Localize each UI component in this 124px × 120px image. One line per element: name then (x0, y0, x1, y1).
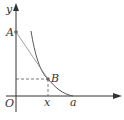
point-a (14, 30, 18, 34)
point-a-label: A (5, 26, 14, 39)
a-tick-label: a (70, 96, 77, 109)
x-tick-label: x (44, 96, 51, 109)
diagram: y A B O x a (0, 0, 124, 120)
origin-label: O (5, 97, 14, 110)
y-axis-arrow-icon (13, 3, 19, 11)
point-b (46, 77, 50, 81)
point-b-label: B (50, 72, 59, 85)
y-axis-label: y (5, 3, 13, 16)
x-axis-arrow-icon (113, 93, 122, 99)
